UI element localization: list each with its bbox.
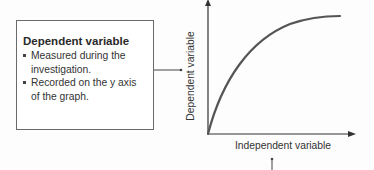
data-curve [208, 16, 340, 134]
connector-dot [180, 69, 183, 72]
x-axis-label: Independent variable [235, 140, 331, 151]
y-axis-arrow-icon [205, 0, 211, 6]
x-label-pointer-dot [271, 158, 274, 161]
x-axis-arrow-icon [348, 131, 356, 137]
y-axis-label: Dependent variable [185, 31, 196, 120]
